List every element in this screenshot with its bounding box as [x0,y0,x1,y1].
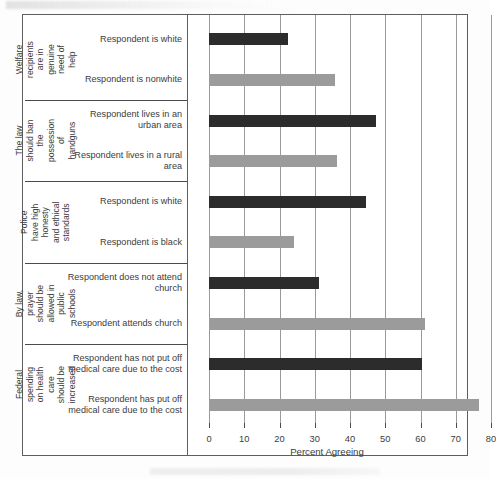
x-tick-label: 0 [206,434,211,444]
x-tick-label: 60 [415,434,425,444]
bar-label: Respondent has put off medical care due … [67,384,187,425]
group-label: By law, prayer should be allowed in publ… [23,263,67,344]
group-divider [25,344,187,345]
bar-label-text: Respondent has not put off medical care … [67,353,182,375]
x-tick-label: 70 [451,434,461,444]
scan-artifact-top [6,1,306,9]
x-tick-label: 40 [345,434,355,444]
bar-label-column: Respondent is whiteRespondent is nonwhit… [67,15,187,455]
bar-label-text: Respondent has put off medical care due … [67,394,182,416]
bar [209,74,335,86]
x-tick-label: 20 [274,434,284,444]
group-label: Police have high honesty and ethical sta… [23,181,67,262]
bar [209,399,479,411]
bar [209,155,337,167]
bar-label-text: Respondent is nonwhite [85,74,182,85]
x-tick-label: 50 [380,434,390,444]
gridline [491,15,492,425]
bar-label-text: Respondent attends church [71,318,182,329]
group-label-text: Police have high honesty and ethical sta… [19,200,72,244]
bar-label-text: Respondent lives in an urban area [67,109,182,131]
x-tick [456,423,457,428]
x-tick-label: 10 [239,434,249,444]
x-tick [385,423,386,428]
bar-label-text: Respondent is white [100,34,182,45]
group-divider [25,181,187,182]
gridline [456,15,457,425]
bar [209,277,319,289]
x-tick [209,423,210,428]
bar-label: Respondent is white [67,181,187,222]
x-tick [491,423,492,428]
bar-label-text: Respondent does not attend church [67,272,182,294]
bar-label: Respondent is white [67,19,187,60]
chart-frame: Welfare recipients are in genuine need o… [22,14,468,456]
bar [209,196,366,208]
bar [209,236,294,248]
bar [209,115,376,127]
group-divider [25,263,187,264]
plot-area: Percent Agreeing 01020304050607080 [187,15,467,455]
group-label: Welfare recipients are in genuine need o… [23,19,67,100]
bar-label: Respondent lives in an urban area [67,100,187,141]
x-tick-label: 80 [486,434,496,444]
bar-label: Respondent attends church [67,303,187,344]
bar-label: Respondent has not put off medical care … [67,344,187,385]
x-tick-label: 30 [310,434,320,444]
x-axis-label: Percent Agreeing [187,446,467,457]
bar-label-text: Respondent is black [100,237,182,248]
x-tick [280,423,281,428]
bar [209,33,288,45]
bar-label-text: Respondent is white [100,196,182,207]
x-tick [350,423,351,428]
x-tick [244,423,245,428]
bar-label: Respondent is nonwhite [67,60,187,101]
group-label: The law should ban the possession of han… [23,100,67,181]
bar [209,318,425,330]
group-label: Federal spending on health care should b… [23,344,67,425]
group-divider [25,100,187,101]
bar-label: Respondent lives in a rural area [67,141,187,182]
x-tick [315,423,316,428]
scan-artifact-bottom [150,468,380,475]
bar-label-text: Respondent lives in a rural area [67,150,182,172]
bar-label: Respondent is black [67,222,187,263]
group-label-column: Welfare recipients are in genuine need o… [23,15,67,455]
x-tick [421,423,422,428]
bar-label: Respondent does not attend church [67,263,187,304]
bar [209,358,422,370]
